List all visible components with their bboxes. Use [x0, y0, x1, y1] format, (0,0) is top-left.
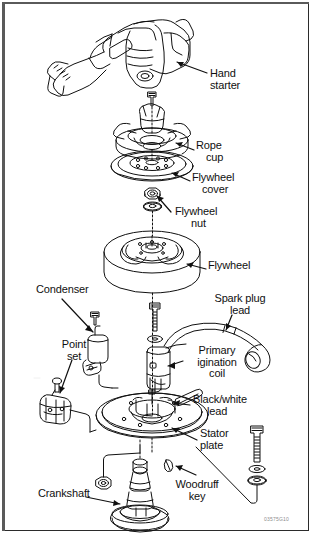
diagram-page: Handstarter Ropecup Flywheelcover Flywhe… — [0, 0, 313, 536]
part-woodruff-key-body — [164, 460, 173, 472]
part-stator-bolt — [251, 426, 263, 462]
exploded-diagram-artwork — [0, 0, 313, 536]
part-point-set-body — [40, 390, 90, 432]
label-flywheel-nut: Flywheelnut — [175, 206, 217, 229]
part-coil-washer — [148, 336, 163, 343]
leader-crankshaft — [86, 497, 120, 506]
label-point-set: Pointset — [50, 339, 98, 362]
label-flywheel: Flywheel — [208, 260, 250, 272]
label-woodruff-key: Woodruffkey — [164, 479, 230, 502]
label-primary-ignition-coil: Primaryiginationcoil — [186, 345, 248, 380]
leader-woodruff-key — [176, 465, 196, 475]
part-condenser-screw — [91, 312, 99, 325]
leader-rope-cup — [176, 142, 194, 150]
part-hand-starter-housing — [47, 19, 193, 96]
leader-spark-plug-lead — [226, 315, 232, 330]
label-condenser: Condenser — [36, 284, 88, 296]
leader-point-set — [59, 360, 72, 393]
part-stator-washers — [248, 465, 266, 485]
figure-code: 03575G10 — [264, 516, 289, 522]
label-crankshaft: Crankshaft — [38, 488, 90, 500]
part-flywheel-washer — [144, 202, 162, 211]
leader-flywheel — [187, 262, 206, 269]
label-stator-plate: Statorplate — [200, 428, 228, 451]
label-flywheel-cover: Flywheelcover — [192, 172, 234, 195]
label-black-white-lead: Black/whitelead — [193, 394, 247, 417]
guide-pointset-to-plate — [90, 430, 96, 432]
label-spark-plug-lead: Spark pluglead — [204, 293, 276, 316]
part-flywheel-body — [104, 231, 200, 293]
label-hand-starter: Handstarter — [210, 68, 240, 91]
part-lower-nut — [96, 477, 111, 489]
leader-lower-nut-line — [104, 453, 141, 477]
part-coil-screw — [150, 303, 160, 331]
leader-condenser — [62, 299, 93, 332]
label-rope-cup: Ropecup — [196, 140, 223, 163]
